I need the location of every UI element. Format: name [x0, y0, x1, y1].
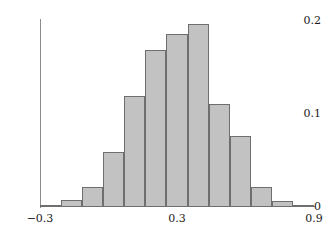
histogram-bar [166, 34, 187, 207]
x-axis-tick-label-left: −0.3 [10, 212, 70, 225]
histogram-bar [209, 104, 230, 207]
histogram-bar [145, 50, 166, 207]
histogram-bar [82, 187, 103, 207]
x-axis-tick-label-right: 0.9 [284, 212, 327, 225]
y-axis-tick-label-0.1: 0.1 [287, 107, 321, 120]
histogram-bar [251, 187, 272, 207]
histogram-bar [40, 205, 61, 207]
histogram-bar [124, 96, 145, 207]
histogram-bar [230, 136, 251, 207]
histogram-bar [188, 24, 209, 207]
histogram-bar [103, 152, 124, 207]
plot-area [40, 21, 314, 207]
histogram-bar [61, 200, 82, 207]
y-axis-tick-label-0.2: 0.2 [287, 14, 321, 27]
x-axis-tick-label-middle: 0.3 [147, 212, 207, 225]
